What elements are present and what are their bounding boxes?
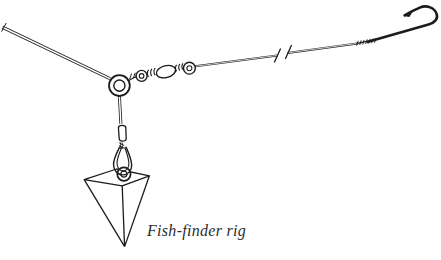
- bead: [118, 125, 126, 141]
- sinker-edges: [84, 176, 149, 247]
- hook-barb: [404, 10, 414, 17]
- swivel-left-eye-hole: [139, 74, 144, 79]
- swivel-coil-right: [175, 63, 183, 71]
- rig-illustration: [0, 0, 441, 260]
- leader-segment-2-gap: [288, 43, 358, 53]
- swivel-right-eye-hole: [187, 66, 192, 71]
- slide-ring-inner: [114, 80, 125, 91]
- swivel-coil-left: [147, 68, 155, 77]
- figure-caption: Fish-finder rig: [147, 222, 246, 240]
- leader-segment-1-gap: [195, 55, 277, 66]
- fish-finder-rig-figure: Fish-finder rig: [0, 0, 441, 260]
- fishing-hook: [368, 6, 437, 41]
- line-break-marks: [274, 45, 291, 63]
- main-line-gap: [3, 27, 111, 78]
- swivel-barrel: [156, 65, 175, 77]
